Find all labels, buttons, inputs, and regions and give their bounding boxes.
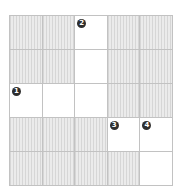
block-cell bbox=[108, 16, 140, 49]
answer-cell-r2c0[interactable]: 1 bbox=[10, 84, 42, 117]
block-cell bbox=[75, 118, 107, 151]
block-cell bbox=[140, 50, 172, 83]
answer-cell-r4c4[interactable] bbox=[140, 152, 172, 185]
block-cell bbox=[108, 84, 140, 117]
answer-cell-r3c3[interactable]: 3 bbox=[108, 118, 140, 151]
block-cell bbox=[140, 16, 172, 49]
clue-number-badge: 4 bbox=[142, 121, 151, 130]
block-cell bbox=[43, 118, 75, 151]
block-cell bbox=[10, 16, 42, 49]
answer-cell-r2c2[interactable] bbox=[75, 84, 107, 117]
block-cell bbox=[43, 152, 75, 185]
answer-cell-r0c2[interactable]: 2 bbox=[75, 16, 107, 49]
answer-cell-r3c4[interactable]: 4 bbox=[140, 118, 172, 151]
clue-number-badge: 3 bbox=[110, 121, 119, 130]
block-cell bbox=[75, 152, 107, 185]
block-cell bbox=[140, 84, 172, 117]
block-cell bbox=[43, 50, 75, 83]
block-cell bbox=[10, 118, 42, 151]
clue-number-badge: 2 bbox=[77, 19, 86, 28]
block-cell bbox=[43, 16, 75, 49]
answer-cell-r2c1[interactable] bbox=[43, 84, 75, 117]
block-cell bbox=[10, 152, 42, 185]
block-cell bbox=[108, 50, 140, 83]
clue-number-badge: 1 bbox=[12, 87, 21, 96]
block-cell bbox=[10, 50, 42, 83]
block-cell bbox=[108, 152, 140, 185]
answer-cell-r1c2[interactable] bbox=[75, 50, 107, 83]
crossword-grid: 2 1 3 4 bbox=[9, 15, 173, 186]
